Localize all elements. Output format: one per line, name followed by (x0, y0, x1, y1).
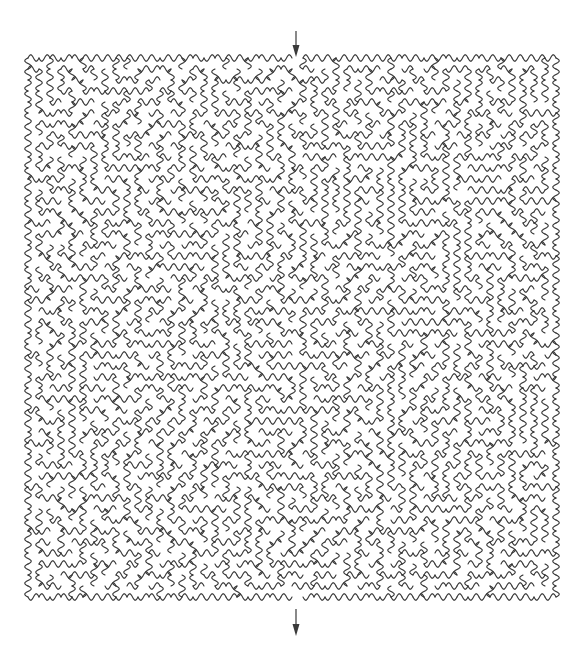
maze-puzzle-page: Curvy Maze Puzzle Entrance Exit A square… (0, 0, 585, 651)
maze-canvas (0, 0, 585, 651)
